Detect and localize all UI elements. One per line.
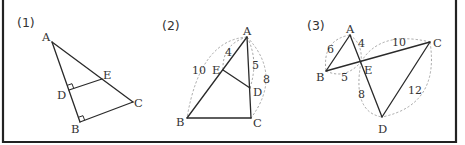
point-a-label: A (345, 22, 355, 36)
panel-1: (1) A E D C B (17, 15, 143, 136)
point-e-label: E (364, 63, 372, 77)
length-ed: 8 (358, 88, 365, 101)
panel-1-label: (1) (17, 15, 35, 30)
point-d-label: D (253, 85, 262, 99)
length-ad: 5 (252, 59, 259, 72)
point-c-label: C (433, 36, 442, 50)
point-a-label: A (41, 30, 51, 44)
length-be: 5 (341, 71, 348, 84)
frame-border (3, 0, 456, 142)
panel-3-label: (3) (307, 18, 325, 33)
segment-ab (187, 37, 247, 118)
point-e-label: E (212, 63, 220, 77)
segment-ed (223, 70, 250, 88)
length-cd: 12 (408, 84, 422, 97)
length-ae: 4 (225, 46, 232, 59)
segment-bc (80, 102, 133, 122)
point-c-label: C (253, 116, 262, 130)
point-b-label: B (71, 122, 79, 136)
segment-ab (52, 42, 80, 122)
panel-2-label: (2) (162, 18, 180, 33)
point-c-label: C (134, 96, 143, 110)
length-ab: 10 (192, 64, 206, 77)
geometry-figure: (1) A E D C B (2) (0, 0, 465, 145)
point-b-label: B (176, 115, 184, 129)
length-ec: 10 (392, 36, 406, 49)
panel-3: (3) A B E C D 6 4 10 5 8 12 (307, 18, 442, 136)
length-ac: 8 (263, 73, 270, 86)
point-b-label: B (316, 70, 324, 84)
point-d-label: D (57, 88, 66, 102)
segment-de (69, 79, 102, 90)
segment-ac (247, 37, 251, 118)
point-d-label: D (378, 122, 387, 136)
point-e-label: E (103, 68, 111, 82)
length-ab: 6 (327, 43, 334, 56)
length-ae: 4 (358, 37, 365, 50)
point-a-label: A (242, 24, 252, 38)
panel-2: (2) A E D B C 4 10 5 8 (162, 18, 270, 130)
